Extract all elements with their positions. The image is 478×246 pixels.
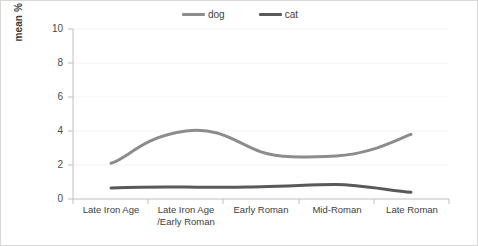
series-line-dog [111,130,411,163]
x-tick-label-late-roman: Late Roman [370,204,454,216]
gridlines [73,29,449,165]
x-tick-label-mid-roman: Mid-Roman [295,204,379,216]
x-tick-label-late-iron-age: Late Iron Age [69,204,153,216]
series-line-cat [111,184,411,192]
chart-figure: dog cat mean % NISP 10 8 6 4 2 0 [0,0,478,246]
x-tick-label-early-roman: Early Roman [219,204,303,216]
y-axis-ticks [68,29,73,199]
x-tick-label-late-iron-age-early-roman: Late Iron Age /Early Roman [144,204,228,228]
